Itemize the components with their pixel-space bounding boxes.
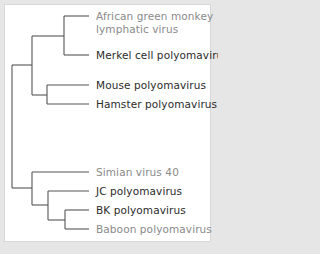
leaf-label-line: lymphatic virus <box>96 23 213 35</box>
leaf-label-african-green-monkey: African green monkey lymphatic virus <box>96 10 213 35</box>
leaf-label-hamster: Hamster polyomavirus <box>96 98 217 110</box>
leaf-label-line: African green monkey <box>96 10 213 22</box>
leaf-label-simian-virus-40: Simian virus 40 <box>96 166 179 178</box>
leaf-label-baboon: Baboon polyomavirus <box>96 223 212 235</box>
leaf-label-bk: BK polyomavirus <box>96 204 186 216</box>
leaf-label-jc: JC polyomavirus <box>96 185 182 197</box>
leaf-label-mouse: Mouse polyomavirus <box>96 79 206 91</box>
leaf-label-merkel-cell: Merkel cell polyomavirus <box>96 49 218 61</box>
